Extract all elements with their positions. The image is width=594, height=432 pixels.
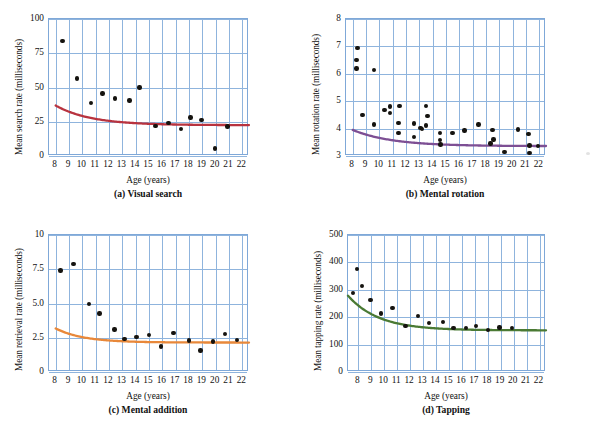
data-point bbox=[476, 122, 480, 126]
x-axis-tick-label: 19 bbox=[197, 375, 206, 385]
x-axis-tick-label: 20 bbox=[210, 375, 219, 385]
x-axis-tick-label: 10 bbox=[77, 159, 86, 169]
plot-a: 02550751008910111213141516171819202122Me… bbox=[0, 0, 297, 216]
y-axis-tick-label: 100 bbox=[22, 13, 44, 23]
x-axis-tick-label: 20 bbox=[210, 159, 219, 169]
data-point bbox=[112, 327, 116, 331]
x-axis-tick-label: 11 bbox=[90, 375, 99, 385]
x-axis-tick-label: 14 bbox=[427, 159, 436, 169]
data-point bbox=[462, 128, 466, 132]
x-axis-tick-label: 22 bbox=[237, 159, 246, 169]
x-axis-tick-label: 12 bbox=[103, 375, 112, 385]
y-axis-tick-label: 100 bbox=[321, 339, 343, 349]
data-point bbox=[388, 104, 392, 108]
x-axis-tick-label: 12 bbox=[103, 159, 112, 169]
fitted-curve-d bbox=[348, 235, 546, 372]
data-point bbox=[166, 121, 170, 125]
y-axis-label: Mean search rate (milliseconds) bbox=[14, 39, 24, 155]
data-point bbox=[134, 335, 138, 339]
fitted-curve-b bbox=[346, 19, 546, 156]
data-point bbox=[113, 96, 117, 100]
data-point bbox=[188, 115, 192, 119]
x-axis-label: Age (years) bbox=[126, 391, 170, 401]
x-axis-tick-label: 16 bbox=[157, 159, 166, 169]
data-point bbox=[137, 85, 141, 89]
y-axis-tick-label: 200 bbox=[321, 311, 343, 321]
x-axis-tick-label: 12 bbox=[404, 375, 413, 385]
plot-b: 3456788910111213141516171819202122Mean r… bbox=[297, 0, 594, 216]
x-axis-tick-label: 18 bbox=[482, 375, 491, 385]
data-point bbox=[372, 122, 376, 126]
gridline-horizontal bbox=[49, 372, 247, 373]
x-axis-tick-label: 12 bbox=[400, 159, 409, 169]
data-point bbox=[60, 39, 64, 43]
x-axis-tick-label: 11 bbox=[90, 159, 99, 169]
plot-area-c bbox=[48, 234, 248, 371]
y-axis-label: Mean rotation rate (milliseconds) bbox=[311, 34, 321, 155]
data-point bbox=[438, 131, 442, 135]
x-axis-tick-label: 11 bbox=[387, 159, 396, 169]
data-point bbox=[450, 131, 454, 135]
x-axis-tick-label: 19 bbox=[197, 159, 206, 169]
plot-area-a bbox=[48, 18, 248, 155]
y-axis-label: Mean retrieval rate (milliseconds) bbox=[14, 248, 24, 371]
data-point bbox=[213, 146, 217, 150]
data-point bbox=[153, 124, 157, 128]
x-axis-tick-label: 10 bbox=[379, 375, 388, 385]
data-point bbox=[354, 66, 358, 70]
x-axis-tick-label: 21 bbox=[223, 375, 232, 385]
x-axis-tick-label: 9 bbox=[363, 159, 368, 169]
four-panel-scatter-figure: 02550751008910111213141516171819202122Me… bbox=[0, 0, 594, 432]
x-axis-tick-label: 15 bbox=[143, 159, 152, 169]
x-axis-tick-label: 14 bbox=[130, 375, 139, 385]
plot-area-b bbox=[345, 18, 545, 155]
x-axis-tick-label: 15 bbox=[443, 375, 452, 385]
x-axis-tick-label: 8 bbox=[52, 159, 57, 169]
x-axis-tick-label: 17 bbox=[467, 159, 476, 169]
plot-d: 0100200300400500891011121314151617181920… bbox=[297, 216, 594, 432]
y-axis-tick-label: 2.5 bbox=[22, 332, 44, 342]
gridline-horizontal bbox=[49, 156, 247, 157]
data-point bbox=[412, 121, 416, 125]
data-point bbox=[355, 46, 359, 50]
data-point bbox=[368, 298, 372, 302]
gridline-horizontal bbox=[348, 372, 544, 373]
x-axis-tick-label: 20 bbox=[508, 375, 517, 385]
x-axis-tick-label: 8 bbox=[349, 159, 354, 169]
data-point bbox=[122, 337, 126, 341]
y-axis-tick-label: 7 bbox=[319, 40, 341, 50]
y-axis-label: Mean tapping rate (milliseconds) bbox=[313, 251, 323, 371]
x-axis-tick-label: 17 bbox=[469, 375, 478, 385]
y-axis-tick-label: 4 bbox=[319, 123, 341, 133]
data-point bbox=[211, 339, 215, 343]
panel-a-visual-search: 02550751008910111213141516171819202122Me… bbox=[0, 0, 297, 216]
x-axis-tick-label: 16 bbox=[157, 375, 166, 385]
y-axis-tick-label: 10 bbox=[22, 229, 44, 239]
x-axis-tick-label: 17 bbox=[170, 159, 179, 169]
y-axis-tick-label: 5.0 bbox=[22, 298, 44, 308]
panel-title: (d) Tapping bbox=[422, 404, 470, 415]
data-point bbox=[424, 123, 428, 127]
x-axis-tick-label: 22 bbox=[534, 159, 543, 169]
x-axis-tick-label: 9 bbox=[368, 375, 373, 385]
data-point bbox=[396, 131, 400, 135]
x-axis-tick-label: 8 bbox=[355, 375, 360, 385]
data-point bbox=[502, 150, 506, 154]
y-axis-tick-label: 5 bbox=[319, 95, 341, 105]
data-point bbox=[360, 113, 364, 117]
panel-title: (a) Visual search bbox=[114, 188, 182, 199]
x-axis-tick-label: 21 bbox=[520, 159, 529, 169]
x-axis-label: Age (years) bbox=[423, 175, 467, 185]
y-axis-tick-label: 500 bbox=[321, 229, 343, 239]
y-axis-tick-label: 50 bbox=[22, 82, 44, 92]
x-axis-tick-label: 19 bbox=[494, 159, 503, 169]
y-axis-tick-label: 400 bbox=[321, 256, 343, 266]
y-axis-tick-label: 0 bbox=[321, 366, 343, 376]
panel-b-mental-rotation: 3456788910111213141516171819202122Mean r… bbox=[297, 0, 594, 216]
x-axis-tick-label: 15 bbox=[143, 375, 152, 385]
data-point bbox=[75, 76, 79, 80]
data-point bbox=[127, 98, 131, 102]
panel-d-tapping: 0100200300400500891011121314151617181920… bbox=[297, 216, 594, 432]
panel-title: (b) Mental rotation bbox=[406, 188, 485, 199]
y-axis-tick-label: 7.5 bbox=[22, 263, 44, 273]
